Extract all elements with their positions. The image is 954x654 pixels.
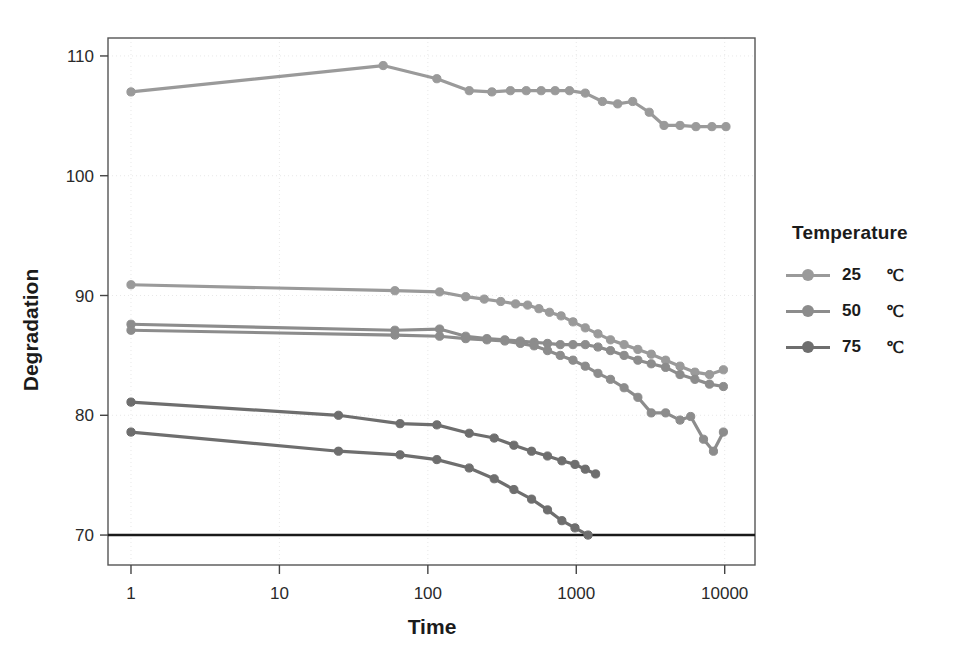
data-point bbox=[594, 330, 602, 338]
data-point bbox=[692, 123, 700, 131]
data-point bbox=[465, 429, 473, 437]
data-point bbox=[676, 362, 684, 370]
chart-figure: 708090100110110100100010000 Degradation … bbox=[0, 0, 954, 654]
legend-marker-icon bbox=[786, 304, 830, 318]
data-point bbox=[620, 351, 628, 359]
data-point bbox=[719, 382, 727, 390]
data-point bbox=[465, 464, 473, 472]
data-point bbox=[569, 356, 577, 364]
data-point bbox=[483, 336, 491, 344]
legend-item-value: 25 bbox=[842, 265, 876, 285]
data-point bbox=[594, 369, 602, 377]
data-point bbox=[334, 411, 342, 419]
data-point bbox=[396, 420, 404, 428]
data-point bbox=[490, 434, 498, 442]
data-point bbox=[606, 375, 614, 383]
data-point bbox=[581, 341, 589, 349]
x-tick-label: 1000 bbox=[557, 584, 595, 603]
data-point bbox=[606, 347, 614, 355]
data-point bbox=[391, 287, 399, 295]
legend-items: 25℃50℃75℃ bbox=[786, 260, 954, 362]
data-point bbox=[488, 88, 496, 96]
data-point bbox=[634, 393, 642, 401]
y-tick-label: 100 bbox=[66, 167, 94, 186]
data-point bbox=[480, 295, 488, 303]
data-point bbox=[127, 88, 135, 96]
data-point bbox=[687, 412, 695, 420]
data-point bbox=[719, 366, 727, 374]
data-point bbox=[535, 305, 543, 313]
data-point bbox=[645, 108, 653, 116]
data-point bbox=[433, 421, 441, 429]
y-tick-label: 70 bbox=[75, 526, 94, 545]
data-point bbox=[516, 339, 524, 347]
data-point bbox=[530, 342, 538, 350]
data-point bbox=[708, 123, 716, 131]
data-point bbox=[462, 335, 470, 343]
legend-item-unit: ℃ bbox=[886, 338, 904, 357]
data-point bbox=[662, 409, 670, 417]
legend-item[interactable]: 50℃ bbox=[786, 296, 954, 326]
y-tick-label: 90 bbox=[75, 287, 94, 306]
data-point bbox=[647, 350, 655, 358]
data-point bbox=[614, 100, 622, 108]
x-tick-label: 100 bbox=[414, 584, 442, 603]
data-point bbox=[127, 326, 135, 334]
data-point bbox=[691, 375, 699, 383]
data-point bbox=[558, 457, 566, 465]
data-point bbox=[620, 384, 628, 392]
data-point bbox=[647, 409, 655, 417]
data-point bbox=[433, 456, 441, 464]
data-point bbox=[537, 87, 545, 95]
data-point bbox=[545, 308, 553, 316]
data-point bbox=[705, 370, 713, 378]
legend-item-unit: ℃ bbox=[886, 266, 904, 285]
legend-item-value: 50 bbox=[842, 301, 876, 321]
legend: Temperature 25℃50℃75℃ bbox=[786, 222, 954, 368]
data-point bbox=[662, 363, 670, 371]
data-point bbox=[543, 452, 551, 460]
data-point bbox=[660, 121, 668, 129]
data-point bbox=[522, 87, 530, 95]
data-point bbox=[543, 506, 551, 514]
data-point bbox=[127, 428, 135, 436]
data-point bbox=[501, 337, 509, 345]
data-point bbox=[581, 89, 589, 97]
data-point bbox=[709, 447, 717, 455]
data-point bbox=[647, 360, 655, 368]
data-point bbox=[629, 97, 637, 105]
data-point bbox=[497, 297, 505, 305]
data-point bbox=[676, 416, 684, 424]
data-point bbox=[569, 318, 577, 326]
data-point bbox=[379, 61, 387, 69]
data-point bbox=[719, 428, 727, 436]
data-point bbox=[396, 451, 404, 459]
data-point bbox=[569, 341, 577, 349]
data-point bbox=[634, 356, 642, 364]
data-point bbox=[594, 343, 602, 351]
data-point bbox=[592, 470, 600, 478]
data-point bbox=[581, 324, 589, 332]
x-tick-label: 10 bbox=[270, 584, 289, 603]
legend-marker-icon bbox=[786, 340, 830, 354]
legend-item-unit: ℃ bbox=[886, 302, 904, 321]
data-point bbox=[556, 351, 564, 359]
x-tick-label: 1 bbox=[126, 584, 135, 603]
data-point bbox=[527, 447, 535, 455]
data-point bbox=[565, 87, 573, 95]
data-point bbox=[676, 121, 684, 129]
data-point bbox=[556, 341, 564, 349]
legend-item[interactable]: 25℃ bbox=[786, 260, 954, 290]
data-point bbox=[584, 531, 592, 539]
data-point bbox=[581, 465, 589, 473]
legend-item[interactable]: 75℃ bbox=[786, 332, 954, 362]
data-point bbox=[524, 301, 532, 309]
y-tick-label: 80 bbox=[75, 406, 94, 425]
data-point bbox=[511, 300, 519, 308]
data-point bbox=[436, 288, 444, 296]
legend-marker-icon bbox=[786, 268, 830, 282]
data-point bbox=[705, 380, 713, 388]
data-point bbox=[510, 485, 518, 493]
data-point bbox=[334, 447, 342, 455]
data-point bbox=[462, 293, 470, 301]
